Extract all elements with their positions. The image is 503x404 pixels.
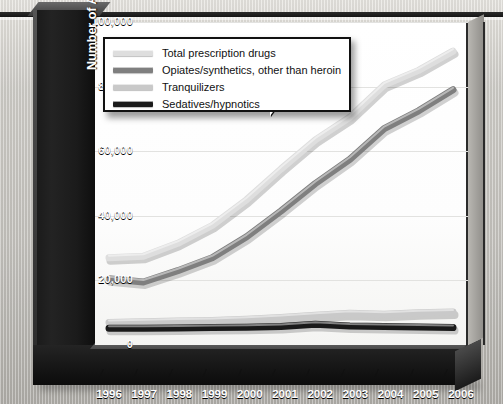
y-tick-label: 60,000	[49, 144, 133, 156]
chart-figure: 100,00080,00060,00040,00020,0000 Number …	[0, 0, 503, 404]
plot-right-wall	[468, 14, 484, 345]
legend-swatch	[113, 67, 153, 73]
y-axis-block-highlight	[33, 10, 37, 378]
y-tick-label: 40,000	[49, 209, 133, 221]
legend-swatch	[113, 50, 153, 56]
legend-item: Tranquilizers	[113, 78, 343, 95]
legend-label: Opiates/synthetics, other than heroin	[162, 64, 341, 76]
legend-label: Sedatives/hypnotics	[162, 98, 260, 110]
legend-item: Opiates/synthetics, other than heroin	[113, 61, 343, 78]
legend-label: Tranquilizers	[162, 81, 225, 93]
plot-right-edge	[483, 22, 485, 345]
y-axis-title: Number of Admissions to Rehabilitation C…	[85, 0, 99, 70]
y-tick-label: 20,000	[49, 273, 133, 285]
legend-item: Sedatives/hypnotics	[113, 95, 343, 112]
legend: Total prescription drugsOpiates/syntheti…	[103, 37, 351, 112]
legend-swatch	[113, 101, 153, 107]
x-axis-block	[33, 345, 468, 385]
x-tick-label: 2006	[440, 388, 482, 400]
legend-swatch	[113, 84, 153, 90]
y-tick-label: 0	[49, 338, 133, 350]
legend-item: Total prescription drugs	[113, 44, 343, 61]
legend-label: Total prescription drugs	[162, 47, 276, 59]
